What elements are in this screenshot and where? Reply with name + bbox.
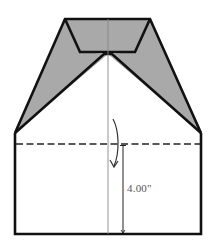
dimension-line <box>120 145 126 233</box>
dimension-label: 4.00" <box>127 182 152 194</box>
fold-arrow-icon <box>110 119 118 167</box>
folding-diagram <box>0 0 213 248</box>
